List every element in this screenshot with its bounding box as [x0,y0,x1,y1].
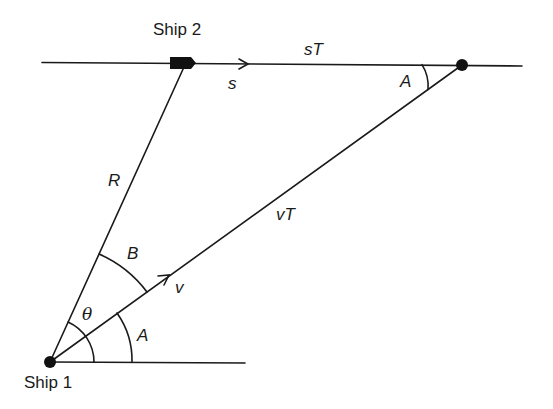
st-label: sT [304,41,323,58]
meeting-point-dot-icon [456,59,468,71]
ship1-path-line [50,65,462,362]
ship1-dot-icon [44,356,56,368]
b-angle-arc [99,254,147,292]
r-label: R [108,172,120,189]
theta-label: θ [82,306,92,323]
a-top-label: A [400,73,411,90]
b-label: B [127,245,138,262]
ship1-label: Ship 1 [24,374,72,391]
baseline [50,362,245,363]
a-angle-arc-bottom [117,313,132,362]
a-bottom-label: A [137,327,148,344]
ship2-label: Ship 2 [153,21,201,38]
vt-label: vT [276,206,295,223]
v-label: v [175,279,184,296]
ship2-marker-icon [170,57,196,69]
theta-angle-arc [68,322,94,362]
ship2-track-line [42,63,522,67]
a-angle-arc-top [422,65,428,90]
s-label: s [228,75,237,92]
range-line [50,67,184,362]
